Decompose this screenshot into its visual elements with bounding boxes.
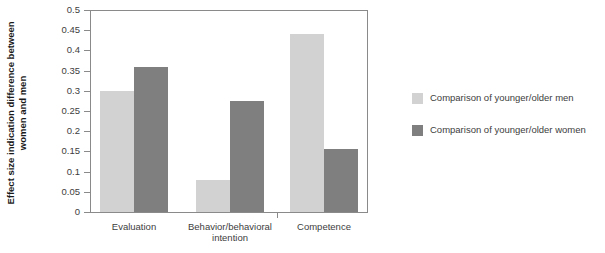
y-tick-label: 0.05 <box>22 187 80 197</box>
x-axis-label-line2: intention <box>170 232 290 243</box>
legend-label-men: Comparison of younger/older men <box>430 92 574 104</box>
bar-men-1 <box>196 180 230 212</box>
x-axis-label-2: Competence <box>264 221 384 232</box>
legend-item-women: Comparison of younger/older women <box>412 124 602 156</box>
bar-men-2 <box>290 34 324 212</box>
y-tick-label-text: 0.3 <box>26 86 80 96</box>
dark-gray-swatch-icon <box>412 125 423 136</box>
y-tick-label-text: 0.15 <box>26 146 80 156</box>
x-axis-label-line1: Competence <box>264 221 384 232</box>
y-tick-label-text: 0.25 <box>26 106 80 116</box>
y-tick-label-text: 0.2 <box>26 126 80 136</box>
y-tick-label-text: 0.35 <box>26 66 80 76</box>
y-tick-label: 0.45 <box>22 25 80 35</box>
y-tick-label-text: 0.05 <box>26 187 80 197</box>
legend: Comparison of younger/older men Comparis… <box>412 92 602 156</box>
y-tick-label: 0.2 <box>22 126 80 136</box>
y-tick-label-text: 0.5 <box>26 5 80 15</box>
legend-item-men: Comparison of younger/older men <box>412 92 602 124</box>
y-tick-label: 0.5 <box>22 5 80 15</box>
y-tick-label: 0.15 <box>22 146 80 156</box>
y-tick-label: 0.1 <box>22 167 80 177</box>
y-tick-label-text: 0.4 <box>26 45 80 55</box>
bar-women-1 <box>230 101 264 212</box>
y-tick-label: 0.3 <box>22 86 80 96</box>
legend-label-women: Comparison of younger/older women <box>430 124 586 136</box>
y-tick-label: 0 <box>22 207 80 217</box>
y-tick-label-text: 0 <box>26 207 80 217</box>
y-axis-title-line1: Effect size indication difference betwee… <box>5 21 16 204</box>
chart-figure: Effect size indication difference betwee… <box>0 0 605 253</box>
y-tick-label-text: 0.45 <box>26 25 80 35</box>
y-tick-label: 0.4 <box>22 45 80 55</box>
bar-women-0 <box>134 67 168 212</box>
bar-women-2 <box>324 149 358 212</box>
y-tick-label-text: 0.1 <box>26 167 80 177</box>
bars-layer <box>90 10 368 212</box>
light-gray-swatch-icon <box>412 93 423 104</box>
x-tick-mark-0 <box>277 213 278 218</box>
y-tick-label: 0.35 <box>22 66 80 76</box>
y-tick-label: 0.25 <box>22 106 80 116</box>
bar-men-0 <box>100 91 134 212</box>
